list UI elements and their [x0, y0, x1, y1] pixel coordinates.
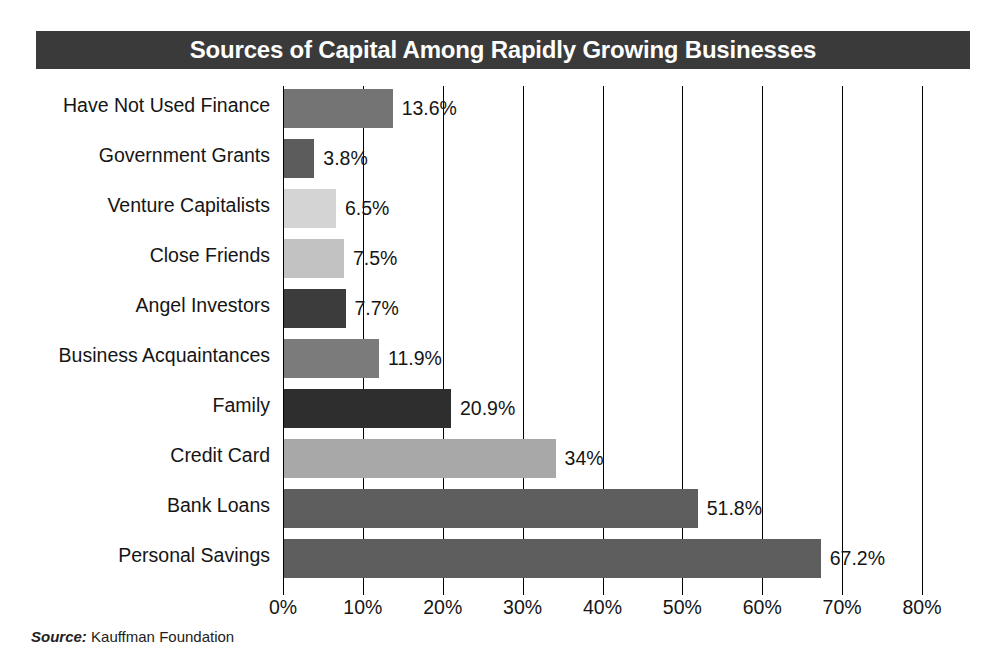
bar-value-label: 3.8%: [323, 139, 367, 178]
bar: [284, 489, 698, 528]
x-tick-label: 20%: [423, 596, 462, 619]
bar-row: Personal Savings67.2%: [283, 536, 922, 586]
bar-row: Venture Capitalists6.5%: [283, 186, 922, 236]
x-tick-mark: [523, 587, 524, 595]
x-tick-mark: [762, 587, 763, 595]
bar-category-label: Bank Loans: [167, 486, 270, 525]
bar-row: Business Acquaintances11.9%: [283, 336, 922, 386]
bar: [284, 539, 821, 578]
bar: [284, 439, 556, 478]
bar-row: Government Grants3.8%: [283, 136, 922, 186]
bar-value-label: 13.6%: [402, 89, 457, 128]
bar-value-label: 11.9%: [388, 339, 442, 378]
bar: [284, 89, 393, 128]
bar-category-label: Family: [213, 386, 270, 425]
x-tick-mark: [922, 587, 923, 595]
x-tick-mark: [283, 587, 284, 595]
bar-row: Have Not Used Finance13.6%: [283, 86, 922, 136]
bar: [284, 139, 314, 178]
x-tick-mark: [842, 587, 843, 595]
bar-value-label: 7.5%: [353, 239, 397, 278]
x-tick-mark: [682, 587, 683, 595]
chart-figure: Sources of Capital Among Rapidly Growing…: [0, 0, 982, 670]
chart-title-bar: Sources of Capital Among Rapidly Growing…: [36, 31, 970, 69]
x-tick-label: 60%: [743, 596, 782, 619]
bar: [284, 189, 336, 228]
bar-category-label: Angel Investors: [136, 286, 270, 325]
bar-value-label: 20.9%: [460, 389, 515, 428]
x-tick-mark: [603, 587, 604, 595]
bar-value-label: 67.2%: [830, 539, 885, 578]
x-tick-label: 0%: [269, 596, 297, 619]
bar-row: Family20.9%: [283, 386, 922, 436]
bar: [284, 389, 451, 428]
bar-category-label: Close Friends: [150, 236, 270, 275]
x-tick-label: 50%: [663, 596, 702, 619]
bar: [284, 239, 344, 278]
source-value: Kauffman Foundation: [91, 628, 234, 645]
x-tick-label: 10%: [343, 596, 382, 619]
source-label: Source:: [31, 628, 87, 645]
bar-row: Close Friends7.5%: [283, 236, 922, 286]
bar-value-label: 7.7%: [355, 289, 399, 328]
x-tick-label: 40%: [583, 596, 622, 619]
bar-value-label: 34%: [565, 439, 604, 478]
bar-value-label: 51.8%: [707, 489, 762, 528]
bar-category-label: Venture Capitalists: [107, 186, 270, 225]
x-tick-label: 70%: [823, 596, 862, 619]
chart-title: Sources of Capital Among Rapidly Growing…: [190, 36, 816, 64]
bar-row: Credit Card34%: [283, 436, 922, 486]
x-tick-mark: [363, 587, 364, 595]
source-note: Source: Kauffman Foundation: [31, 628, 234, 645]
bar-category-label: Business Acquaintances: [59, 336, 270, 375]
bar: [284, 339, 379, 378]
bar-category-label: Have Not Used Finance: [63, 86, 270, 125]
bar-value-label: 6.5%: [345, 189, 389, 228]
plot-area: Have Not Used Finance13.6%Government Gra…: [283, 86, 922, 587]
bar-row: Angel Investors7.7%: [283, 286, 922, 336]
x-tick-label: 30%: [503, 596, 542, 619]
bar-category-label: Government Grants: [99, 136, 270, 175]
bar-category-label: Credit Card: [170, 436, 270, 475]
bar-row: Bank Loans51.8%: [283, 486, 922, 536]
bar-category-label: Personal Savings: [118, 536, 270, 575]
gridline-80%: [922, 86, 923, 587]
bar: [284, 289, 346, 328]
x-tick-mark: [443, 587, 444, 595]
x-tick-label: 80%: [902, 596, 941, 619]
